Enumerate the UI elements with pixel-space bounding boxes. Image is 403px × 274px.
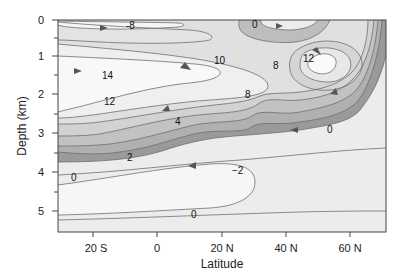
- x-axis: [93, 232, 350, 237]
- contour-label: 0: [327, 124, 333, 135]
- y-tick-label: 5: [38, 205, 44, 217]
- x-axis-title: Latitude: [201, 257, 244, 271]
- contour-label: 10: [214, 55, 226, 66]
- contour-label: 0: [252, 19, 258, 30]
- contour-label: 4: [175, 116, 181, 127]
- y-tick-label: 4: [38, 166, 44, 178]
- plot-area: [58, 20, 386, 232]
- contour-label: 0: [191, 209, 197, 220]
- x-tick-label: 20 N: [210, 242, 233, 254]
- y-tick-label: 0: [38, 14, 44, 26]
- contour-label: 8: [245, 89, 251, 100]
- contour-chart: -8 0 14 12 10 8 12 8 4 2 0 0 −2 0 0 1 2 …: [0, 0, 403, 274]
- x-tick-label: 40 N: [274, 242, 297, 254]
- x-tick-label: 0: [154, 242, 160, 254]
- y-axis: [52, 20, 58, 211]
- contour-label: 8: [273, 60, 279, 71]
- y-tick-label: 2: [38, 88, 44, 100]
- y-axis-title: Depth (km): [15, 96, 29, 155]
- contour-label: 12: [104, 96, 116, 107]
- contour-label: 12: [303, 53, 315, 64]
- contour-label: 0: [71, 172, 77, 183]
- x-tick-label: 20 S: [85, 242, 108, 254]
- contour-label: -8: [126, 20, 135, 31]
- contour-label: 2: [127, 152, 133, 163]
- contour-label: −2: [232, 165, 244, 176]
- contour-label: 14: [102, 70, 114, 81]
- x-tick-label: 60 N: [338, 242, 361, 254]
- y-tick-label: 1: [38, 50, 44, 62]
- y-tick-label: 3: [38, 127, 44, 139]
